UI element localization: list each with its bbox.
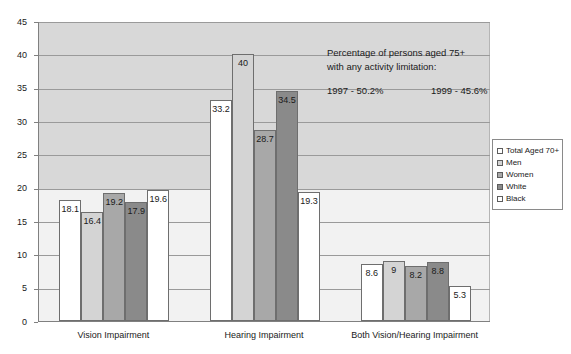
gridline <box>39 122 490 123</box>
legend-swatch <box>497 196 503 202</box>
y-axis-tick-label: 25 <box>0 151 27 160</box>
bar: 19.6 <box>147 190 169 321</box>
bar-value-label: 17.9 <box>126 207 146 216</box>
annotation-note: Percentage of persons aged 75+ with any … <box>327 46 532 96</box>
x-axis-category-label: Both Vision/Hearing Impairment <box>339 330 490 340</box>
y-axis-tick-label: 35 <box>0 84 27 93</box>
bar-chart: 051015202530354045 18.116.419.217.919.63… <box>0 0 571 354</box>
legend-swatch <box>497 184 503 190</box>
legend-label: Total Aged 70+ <box>506 147 559 155</box>
bar: 17.9 <box>125 202 147 321</box>
bar-value-label: 19.3 <box>299 197 319 206</box>
bar: 5.3 <box>449 286 471 321</box>
annotation-stat-1999: 1999 - 45.6% <box>431 84 488 98</box>
legend-label: Black <box>506 195 526 203</box>
bar: 9 <box>383 261 405 321</box>
bar: 16.4 <box>81 212 103 321</box>
annotation-stat-1997: 1997 - 50.2% <box>327 84 384 98</box>
x-axis-category-label: Vision Impairment <box>38 330 189 340</box>
bar: 28.7 <box>254 130 276 321</box>
legend-item: White <box>497 181 558 192</box>
bar: 40 <box>232 54 254 321</box>
y-axis-tick-label: 0 <box>0 318 27 327</box>
bar-value-label: 28.7 <box>255 135 275 144</box>
y-axis-tick-label: 20 <box>0 184 27 193</box>
bar-value-label: 8.6 <box>362 269 382 278</box>
legend-swatch <box>497 148 503 154</box>
bar-value-label: 16.4 <box>82 217 102 226</box>
legend-label: Men <box>506 159 522 167</box>
legend-swatch <box>497 172 503 178</box>
x-axis-category-label: Hearing Impairment <box>189 330 340 340</box>
legend-swatch <box>497 160 503 166</box>
bar-value-label: 19.6 <box>148 195 168 204</box>
bar: 18.1 <box>59 200 81 321</box>
bar: 34.5 <box>276 91 298 321</box>
bar: 8.8 <box>427 262 449 321</box>
legend-label: Women <box>506 171 533 179</box>
bar-value-label: 18.1 <box>60 205 80 214</box>
bar-value-label: 5.3 <box>450 291 470 300</box>
bar-value-label: 8.8 <box>428 267 448 276</box>
bar: 19.2 <box>103 193 125 321</box>
bar-value-label: 19.2 <box>104 198 124 207</box>
y-axis-tick-mark <box>34 322 38 323</box>
chart-legend: Total Aged 70+MenWomenWhiteBlack <box>492 139 563 210</box>
bar: 8.6 <box>361 264 383 321</box>
legend-item: Men <box>497 157 558 168</box>
annotation-line-2: with any activity limitation: <box>327 60 532 74</box>
bar: 19.3 <box>298 192 320 321</box>
y-axis-tick-label: 45 <box>0 18 27 27</box>
y-axis-tick-label: 15 <box>0 218 27 227</box>
bar: 33.2 <box>210 100 232 321</box>
bar-value-label: 8.2 <box>406 271 426 280</box>
bar-value-label: 9 <box>384 266 404 275</box>
legend-item: Total Aged 70+ <box>497 145 558 156</box>
gridline <box>39 22 490 23</box>
legend-item: Black <box>497 193 558 204</box>
bar: 8.2 <box>405 266 427 321</box>
y-axis-tick-label: 40 <box>0 51 27 60</box>
bar-value-label: 40 <box>233 59 253 68</box>
legend-item: Women <box>497 169 558 180</box>
y-axis-tick-label: 30 <box>0 118 27 127</box>
bar-value-label: 33.2 <box>211 105 231 114</box>
bar-value-label: 34.5 <box>277 96 297 105</box>
legend-label: White <box>506 183 526 191</box>
annotation-line-1: Percentage of persons aged 75+ <box>327 46 532 60</box>
y-axis-tick-label: 5 <box>0 284 27 293</box>
y-axis-tick-label: 10 <box>0 251 27 260</box>
